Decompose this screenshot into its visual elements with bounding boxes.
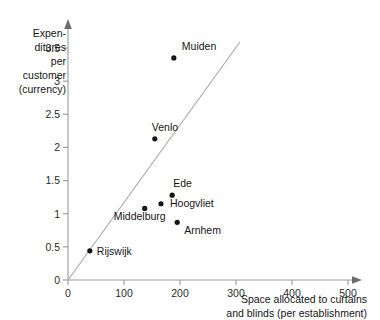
y-tick-label: 1 xyxy=(54,208,60,220)
y-tick-label: 2.5 xyxy=(45,108,60,120)
data-point-label: Ede xyxy=(173,177,192,189)
data-point-marker xyxy=(171,55,176,60)
y-tick-label: 0 xyxy=(54,274,60,286)
y-axis-title-line: customer xyxy=(23,69,67,81)
x-tick-label: 100 xyxy=(115,287,133,299)
y-axis-title-line: per xyxy=(51,55,67,67)
x-axis-title-line: and blinds (per establishment) xyxy=(226,307,367,319)
scatter-plot-figure: 00.511.522.533.5 0100200300400500 Muiden… xyxy=(0,0,380,320)
x-axis-title: Space allocated to curtainsand blinds (p… xyxy=(226,293,367,319)
y-tick-label: 2 xyxy=(54,141,60,153)
y-tick-label: 1.5 xyxy=(45,174,60,186)
data-point-label: Arnhem xyxy=(184,224,221,236)
x-axis-arrow-icon xyxy=(352,276,362,284)
x-tick-label: 0 xyxy=(65,287,71,299)
data-point-marker xyxy=(152,136,157,141)
y-axis-title-line: Expen- xyxy=(33,27,67,39)
x-tick-label: 200 xyxy=(171,287,189,299)
data-point-labels: MuidenVenloEdeHoogvlietMiddelburgArnhemR… xyxy=(97,40,221,257)
data-point-marker xyxy=(158,201,163,206)
data-point-label: Hoogvliet xyxy=(170,197,214,209)
data-point-marker xyxy=(87,248,92,253)
data-point-marker xyxy=(175,220,180,225)
data-point-label: Middelburg xyxy=(114,210,166,222)
plot-canvas: 00.511.522.533.5 0100200300400500 Muiden… xyxy=(0,0,380,320)
data-point-label: Venlo xyxy=(152,121,178,133)
data-point-label: Rijswijk xyxy=(97,245,133,257)
x-axis-title-line: Space allocated to curtains xyxy=(241,293,367,305)
y-tick-label: 0.5 xyxy=(45,241,60,253)
reference-diagonal-line xyxy=(68,42,240,280)
data-point-label: Muiden xyxy=(182,40,217,52)
y-axis-title: Expen-diturespercustomer(currency) xyxy=(19,27,67,95)
y-axis-title-line: (currency) xyxy=(19,83,66,95)
y-axis-title-line: ditures xyxy=(34,41,66,53)
data-point-markers xyxy=(87,55,180,253)
x-tick-marks xyxy=(68,280,348,285)
